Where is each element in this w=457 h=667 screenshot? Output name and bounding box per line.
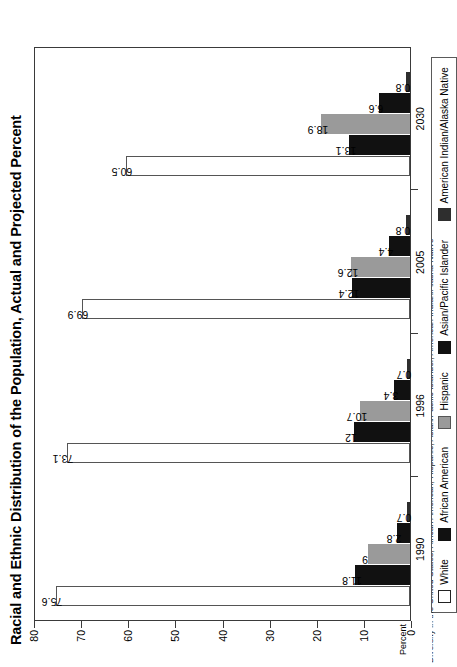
bar-value-label: 6.6 [369, 103, 384, 115]
source-caption-text: Diversity in the United States, African … [432, 238, 435, 663]
bar: 10.7 [360, 401, 410, 421]
bar-value-label: 75.6 [41, 596, 61, 608]
bar-value-label: 13.1 [335, 145, 355, 157]
bar: 12 [354, 422, 410, 442]
bar-value-label: 10.7 [347, 411, 367, 423]
bar-value-label: 9 [362, 554, 368, 566]
bar: 0.7 [407, 359, 410, 379]
category-axis-label: 1996 [414, 394, 426, 417]
bar-value-label: 2.8 [387, 533, 402, 545]
bar: 0.8 [406, 72, 410, 92]
bar: 73.1 [67, 443, 410, 463]
value-axis-tick [223, 621, 224, 628]
value-axis-tick [364, 621, 365, 628]
value-axis-tick [81, 621, 82, 628]
value-axis-tick-label: 40 [217, 630, 229, 642]
bar-value-label: 4.4 [379, 246, 394, 258]
category-axis-tick [411, 333, 418, 334]
value-axis-tick-label: 70 [75, 630, 87, 642]
bar-value-label: 12 [345, 432, 357, 444]
source-caption: Diversity in the United States, African … [432, 0, 443, 667]
value-axis-tick-label: 10 [358, 630, 370, 642]
bar-value-label: 11.8 [342, 575, 362, 587]
category-axis-label: 2030 [414, 107, 426, 130]
value-axis-tick-label: 30 [264, 630, 276, 642]
bar: 18.9 [321, 114, 410, 134]
value-axis-tick-label: 50 [169, 630, 181, 642]
value-axis-tick [175, 621, 176, 628]
value-axis-tick-label: 80 [28, 630, 40, 642]
bar: 60.5 [126, 156, 410, 176]
bar-value-label: 3.4 [384, 390, 399, 402]
value-axis-tick-label: 20 [311, 630, 323, 642]
value-axis-tick [317, 621, 318, 628]
bar: 0.7 [407, 502, 410, 522]
category-axis-label: 2005 [414, 251, 426, 274]
value-axis-tick [411, 621, 412, 628]
value-axis-tick [34, 621, 35, 628]
bar: 4.4 [389, 236, 410, 256]
bar-value-label: 18.9 [308, 124, 328, 136]
bar: 0.8 [406, 215, 410, 235]
page-title: Racial and Ethnic Distribution of the Po… [8, 115, 24, 645]
bar: 2.8 [397, 523, 410, 543]
bar-value-label: 12.6 [338, 267, 358, 279]
value-axis-tick [270, 621, 271, 628]
category-axis-tick [411, 477, 418, 478]
bar: 12.6 [351, 257, 410, 277]
bar: 9 [368, 544, 410, 564]
bar: 3.4 [394, 380, 410, 400]
bar-value-label: 0.8 [396, 225, 411, 237]
value-axis: 01020304050607080 [34, 621, 411, 667]
bar-value-label: 60.5 [112, 166, 132, 178]
value-axis-tick-label: 60 [122, 630, 134, 642]
bar-value-label: 12.4 [339, 288, 359, 300]
category-axis-label: 1990 [414, 538, 426, 561]
bar: 12.4 [352, 278, 410, 298]
bar-value-label: 0.7 [396, 369, 411, 381]
bar: 69.9 [82, 299, 410, 319]
bar: 13.1 [349, 135, 410, 155]
bar: 75.6 [56, 586, 410, 606]
bar: 11.8 [355, 565, 410, 585]
value-axis-tick [128, 621, 129, 628]
plot-area: 75.611.892.80.773.11210.73.40.769.912.41… [34, 47, 411, 621]
bar-value-label: 69.9 [68, 309, 88, 321]
bar-value-label: 0.8 [396, 82, 411, 94]
bar-value-label: 0.7 [396, 512, 411, 524]
value-axis-tick-label: 0 [405, 630, 417, 636]
category-axis-tick [411, 190, 418, 191]
bar-value-label: 73.1 [53, 453, 73, 465]
bar: 6.6 [379, 93, 410, 113]
